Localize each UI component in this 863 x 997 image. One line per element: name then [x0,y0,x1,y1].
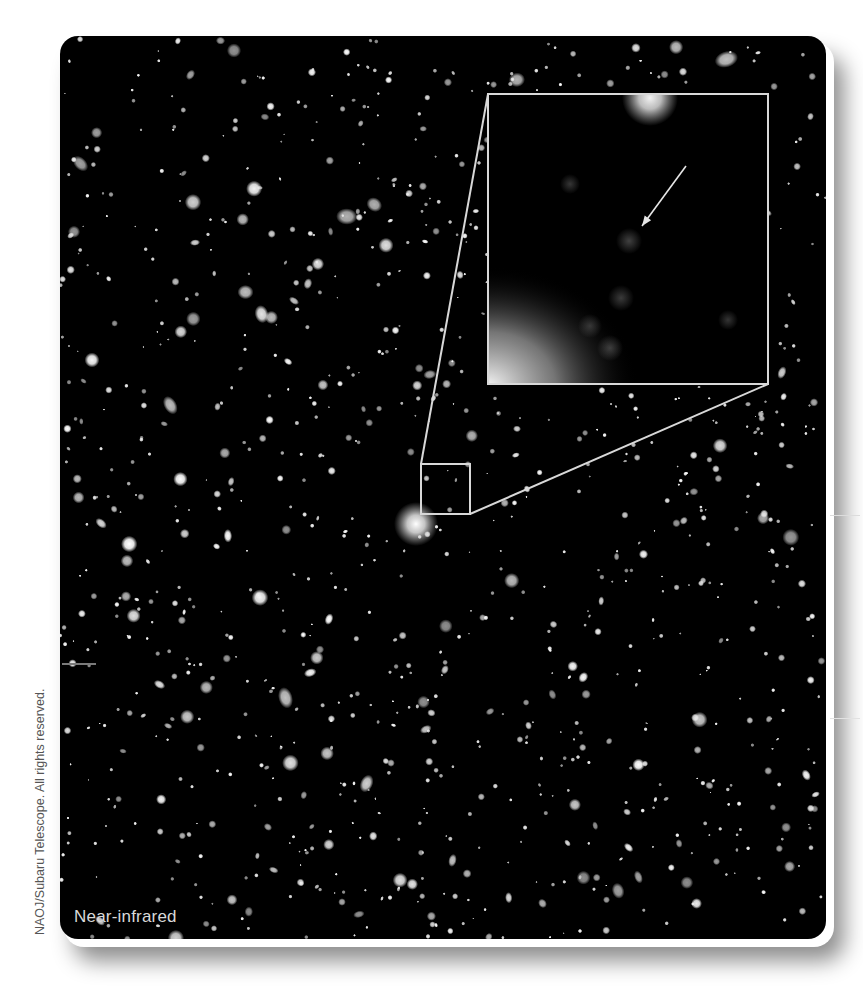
edge-marker [62,663,96,665]
inset-source [718,310,738,330]
connector-line-top [421,94,488,464]
deep-field-figure: Near-infrared NAOJ/Subaru Telescope. All… [0,0,863,997]
inset-source [622,70,678,126]
inset-source [578,314,602,338]
inset-source [616,228,642,254]
bright-corner-glow [488,266,638,386]
inset-source [560,174,580,194]
near-infrared-image: Near-infrared [60,36,826,939]
image-credit: NAOJ/Subaru Telescope. All rights reserv… [33,689,47,935]
edge-marker-right [830,515,860,516]
star-field [60,36,826,939]
magnified-inset [488,70,768,386]
bright-galaxy [394,502,438,546]
inset-source [608,285,634,311]
edge-marker-right-2 [830,718,860,719]
band-label: Near-infrared [74,907,177,927]
inset-source [597,335,623,361]
